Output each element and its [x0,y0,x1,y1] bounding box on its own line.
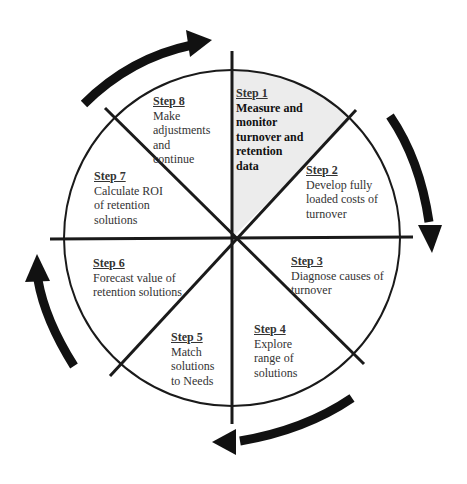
step-5-label: Step 5 Matchsolutionsto Needs [171,330,214,388]
step-2-label: Step 2 Develop fullyloaded costs ofturno… [306,163,378,221]
cycle-diagram [0,0,467,484]
step-7-label: Step 7 Calculate ROIof retentionsolution… [94,169,163,227]
step-6-label: Step 6 Forecast value ofretention soluti… [93,256,182,300]
divider-horizontal [50,237,413,239]
step-4-label: Step 4 Explorerange ofsolutions [254,322,297,380]
step-1-label: Step 1 Measure andmonitorturnover andret… [236,86,303,173]
arrow-right-icon [390,116,442,253]
step-3-label: Step 3 Diagnose causes ofturnover [291,254,384,298]
step-8-label: Step 8 Makeadjustmentsandcontinue [153,94,210,167]
